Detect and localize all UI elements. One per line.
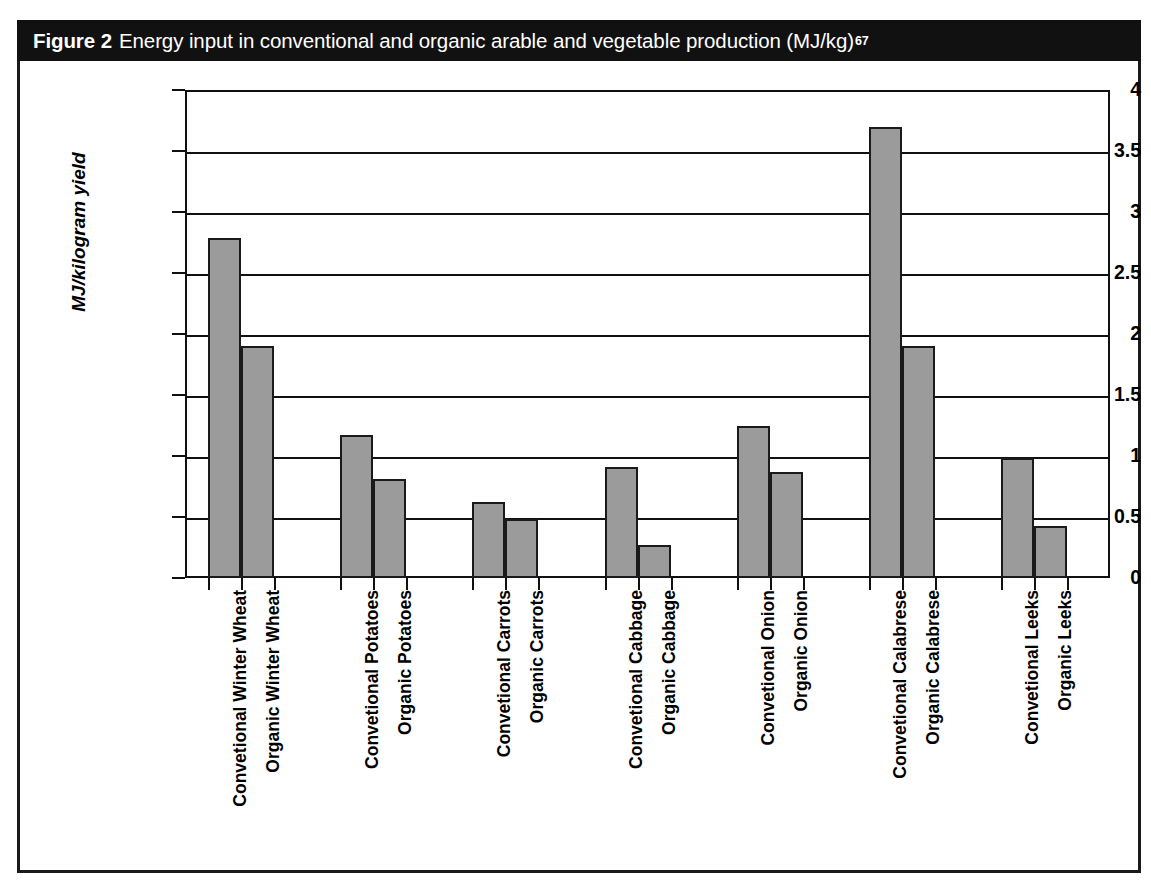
x-tick-mark: [803, 578, 805, 590]
bar: [472, 502, 505, 578]
bar: [770, 472, 803, 578]
x-axis-ticks: [185, 578, 1110, 590]
bar: [208, 238, 241, 578]
y-tick-mark: [172, 150, 185, 152]
x-tick-mark: [1034, 578, 1036, 590]
y-tick-mark: [172, 89, 185, 91]
x-tick-label: Organic Leeks: [1057, 590, 1075, 840]
figure-title-banner: Figure 2Energy input in conventional and…: [17, 20, 1141, 61]
figure-caption: Energy input in conventional and organic…: [119, 29, 854, 53]
bar: [505, 519, 538, 578]
y-tick-mark: [172, 272, 185, 274]
bar: [869, 127, 902, 578]
x-tick-label: Organic Potatoes: [397, 590, 415, 840]
x-tick-mark: [505, 578, 507, 590]
x-tick-mark: [472, 578, 474, 590]
x-tick-mark: [1067, 578, 1069, 590]
x-tick-mark: [340, 578, 342, 590]
y-tick-mark: [172, 333, 185, 335]
bar: [737, 426, 770, 579]
x-tick-mark: [373, 578, 375, 590]
x-tick-mark: [538, 578, 540, 590]
x-tick-label: Convetional Leeks: [1024, 590, 1042, 840]
x-tick-mark: [935, 578, 937, 590]
x-tick-mark: [605, 578, 607, 590]
x-tick-label: Convetional Calabrese: [892, 590, 910, 840]
bar: [1001, 458, 1034, 578]
x-tick-mark: [406, 578, 408, 590]
x-tick-mark: [274, 578, 276, 590]
x-tick-mark: [671, 578, 673, 590]
x-tick-label: Organic Cabbage: [661, 590, 679, 840]
x-tick-mark: [241, 578, 243, 590]
bar: [605, 467, 638, 578]
x-tick-label: Convetional Carrots: [496, 590, 514, 840]
figure-footnote-ref: 67: [855, 34, 869, 48]
figure-number: Figure 2: [33, 29, 112, 53]
x-tick-label: Organic Winter Wheat: [265, 590, 283, 840]
chart-area: MJ/kilogram yield 43.532.521.510.50 Conv…: [17, 61, 1141, 873]
y-tick-mark: [172, 577, 185, 579]
x-tick-label: Convetional Potatoes: [364, 590, 382, 840]
x-tick-label: Convetional Onion: [760, 590, 778, 840]
bar: [340, 435, 373, 578]
y-tick-mark: [172, 516, 185, 518]
x-axis-labels: Convetional Winter WheatOrganic Winter W…: [185, 590, 1110, 840]
x-tick-mark: [638, 578, 640, 590]
x-tick-label: Convetional Winter Wheat: [232, 590, 250, 840]
bar: [241, 346, 274, 578]
bar: [902, 346, 935, 578]
x-tick-mark: [902, 578, 904, 590]
y-tick-mark: [172, 211, 185, 213]
x-tick-label: Organic Onion: [793, 590, 811, 840]
x-tick-label: Convetional Cabbage: [628, 590, 646, 840]
x-tick-mark: [869, 578, 871, 590]
x-tick-mark: [208, 578, 210, 590]
x-tick-label: Organic Carrots: [529, 590, 547, 840]
bar: [1034, 526, 1067, 578]
y-axis-title: MJ/kilogram yield: [68, 122, 90, 342]
x-tick-label: Organic Calabrese: [925, 590, 943, 840]
x-tick-mark: [737, 578, 739, 590]
y-tick-mark: [172, 394, 185, 396]
y-tick-mark: [172, 455, 185, 457]
bar: [638, 545, 671, 578]
bar: [373, 479, 406, 578]
x-tick-mark: [1001, 578, 1003, 590]
figure-screenshot: Figure 2Energy input in conventional and…: [0, 0, 1151, 890]
bars-layer: [185, 90, 1110, 578]
x-tick-mark: [770, 578, 772, 590]
